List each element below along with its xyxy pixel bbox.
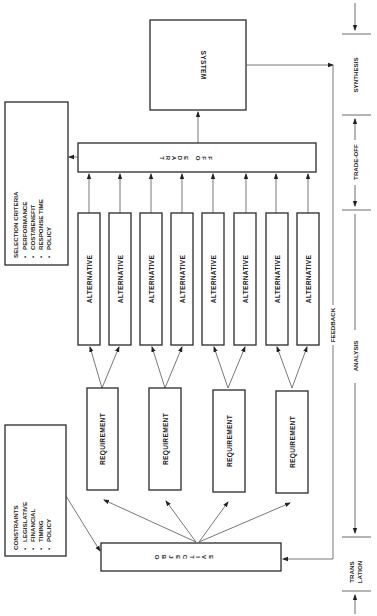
alternative-label: ALTERNATIVE xyxy=(117,254,124,303)
bullet: • xyxy=(21,256,28,258)
alternative-label: ALTERNATIVE xyxy=(148,254,155,303)
alternative-box: ALTERNATIVE xyxy=(140,213,162,345)
objective-arrows xyxy=(104,500,290,542)
systems-engineering-diagram: SYSTEM T R A D E O F F SELECTION CRITERI… xyxy=(0,0,377,616)
trade-off-letter: F xyxy=(201,156,207,160)
bullet: • xyxy=(37,548,44,550)
objective-letter: B xyxy=(161,555,167,560)
phase-translation-line1: TRANS xyxy=(348,561,355,582)
alternative-box: ALTERNATIVE xyxy=(266,213,288,345)
requirement-label: REQUIREMENT xyxy=(289,416,297,468)
arrow-constraints-to-objective xyxy=(66,496,100,551)
criteria-item: RESPONSE TIME xyxy=(37,199,44,250)
trade-off-letter: O xyxy=(195,156,201,161)
alternative-box: ALTERNATIVE xyxy=(234,213,256,345)
alternative-box: ALTERNATIVE xyxy=(297,213,319,345)
trade-off-box: T R A D E O F F xyxy=(78,143,316,172)
requirement-arrows xyxy=(90,347,307,388)
trade-off-letter: T xyxy=(159,156,165,160)
alternative-arrows xyxy=(89,174,308,213)
alternative-box: ALTERNATIVE xyxy=(109,213,131,345)
requirement-box: REQUIREMENT xyxy=(149,388,181,490)
trade-off-letter: D xyxy=(177,156,183,161)
constraints-box: CONSTRAINTS • LEGISLATIVE • FINANCIAL • … xyxy=(5,425,66,556)
objective-letter: C xyxy=(182,555,188,560)
bullet: • xyxy=(45,548,52,550)
criteria-item: COST/BENEFIT xyxy=(29,204,36,250)
phase-trade-off: TRADE-OFF xyxy=(352,144,359,180)
trade-off-letter: A xyxy=(171,156,177,161)
criteria-item: PERFORMANCE xyxy=(21,202,28,250)
alternative-label: ALTERNATIVE xyxy=(274,254,281,303)
objective-letter: E xyxy=(175,555,181,559)
system-label: SYSTEM xyxy=(200,51,207,80)
bullet: • xyxy=(37,256,44,258)
alternative-label: ALTERNATIVE xyxy=(242,254,249,303)
selection-criteria-box: SELECTION CRITERIA • PERFORMANCE • COST/… xyxy=(5,102,68,265)
constraint-item: LEGISLATIVE xyxy=(21,502,28,542)
phase-synthesis: SYNTHESIS xyxy=(352,57,359,92)
objective-letter: V xyxy=(201,555,207,559)
phase-analysis: ANALYSIS xyxy=(352,341,359,372)
alternative-label: ALTERNATIVE xyxy=(210,254,217,303)
alternative-label: ALTERNATIVE xyxy=(86,254,93,303)
constraint-item: TIMING xyxy=(37,520,44,542)
alternative-label: ALTERNATIVE xyxy=(305,254,312,303)
constraint-item: POLICY xyxy=(45,518,52,542)
requirement-label: REQUIREMENT xyxy=(99,413,107,465)
requirement-label: REQUIREMENT xyxy=(226,415,234,467)
trade-off-letter: R xyxy=(165,156,171,161)
alternative-label: ALTERNATIVE xyxy=(179,254,186,303)
objective-letter: J xyxy=(168,555,174,558)
phase-translation-line2: LATION xyxy=(356,560,363,583)
feedback-label: FEEDBACK xyxy=(329,307,336,342)
phase-axis: SYNTHESIS TRADE-OFF ANALYSIS TRANS LATIO… xyxy=(342,3,371,614)
trade-off-letter: E xyxy=(183,156,189,160)
objective-letter: O xyxy=(154,555,160,560)
trade-off-letter: F xyxy=(207,156,213,160)
selection-criteria-title: SELECTION CRITERIA xyxy=(12,191,19,258)
bullet: • xyxy=(45,256,52,258)
bullet: • xyxy=(29,256,36,258)
constraint-item: FINANCIAL xyxy=(29,508,36,542)
requirement-box: REQUIREMENT xyxy=(213,390,245,492)
requirement-box: REQUIREMENT xyxy=(276,391,308,493)
alternative-box: ALTERNATIVE xyxy=(171,213,193,345)
objective-letter: E xyxy=(208,555,214,559)
objective-letter: T xyxy=(189,555,195,559)
alternative-box: ALTERNATIVE xyxy=(78,213,100,345)
bullet: • xyxy=(29,548,36,550)
requirement-box: REQUIREMENT xyxy=(87,388,118,490)
requirement-label: REQUIREMENT xyxy=(162,413,170,465)
criteria-item: POLICY xyxy=(45,226,52,250)
bullet: • xyxy=(21,548,28,550)
system-box: SYSTEM xyxy=(150,20,246,110)
alternative-box: ALTERNATIVE xyxy=(202,213,224,345)
constraints-title: CONSTRAINTS xyxy=(12,505,19,550)
objective-box: O B J E C T I V E xyxy=(101,543,281,571)
